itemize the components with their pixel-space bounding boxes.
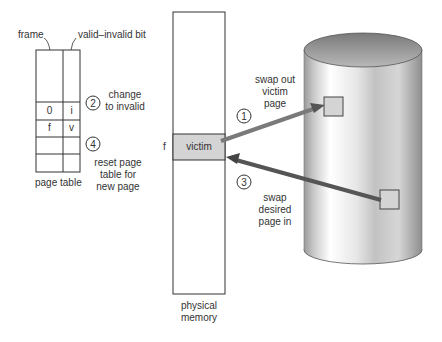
disk-victim-page <box>324 97 343 116</box>
step-3-line3: page in <box>245 216 305 228</box>
step-3-line2: desired <box>245 204 305 216</box>
frame-f-marker: f <box>163 141 166 153</box>
step-1-number: 1 <box>239 111 249 123</box>
diagram-canvas <box>0 0 442 342</box>
swap-out-arrow-icon <box>221 108 316 141</box>
physical-memory-title-line2: memory <box>173 312 225 324</box>
step-2-line1: change <box>100 89 150 101</box>
victim-label: victim <box>173 141 225 153</box>
step-4-line2: table for <box>90 169 146 181</box>
step-3-line1: swap <box>245 192 305 204</box>
valid-bit-pointer-icon <box>71 38 76 50</box>
page-table-bit-0: i <box>63 105 80 117</box>
page-table-bit-1: v <box>63 122 80 134</box>
frame-label: frame <box>18 29 44 41</box>
step-4-line3: new page <box>90 181 146 193</box>
valid-invalid-bit-label: valid–invalid bit <box>78 29 146 41</box>
step-4-number: 4 <box>88 139 98 151</box>
frame-pointer-icon <box>44 38 50 50</box>
page-table-title: page table <box>35 177 82 189</box>
backing-store-disk <box>304 33 422 264</box>
page-table-frame-0: 0 <box>36 105 63 117</box>
step-1-line3: page <box>245 98 305 110</box>
disk-desired-page <box>380 190 399 209</box>
page-table-frame-1: f <box>36 122 63 134</box>
step-4-line1: reset page <box>90 157 146 169</box>
step-2-line2: to invalid <box>100 101 150 113</box>
physical-memory-title-line1: physical <box>173 300 225 312</box>
step-3-number: 3 <box>239 177 249 189</box>
step-1-line2: victim <box>245 86 305 98</box>
step-2-number: 2 <box>88 98 98 110</box>
step-1-line1: swap out <box>245 74 305 86</box>
